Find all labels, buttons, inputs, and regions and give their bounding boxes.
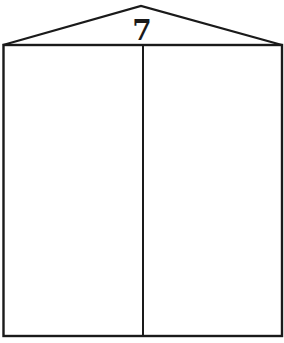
number-house-diagram: 7 [0,0,284,343]
right-column-cell[interactable] [145,47,280,334]
roof-number: 7 [132,14,151,47]
left-column-cell[interactable] [5,47,141,334]
